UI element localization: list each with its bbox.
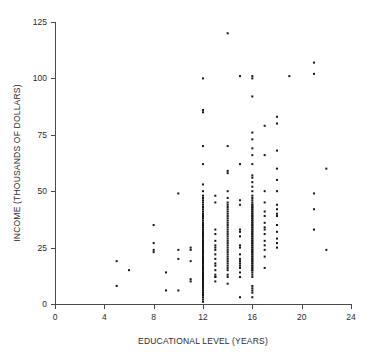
data-point [202,294,204,296]
data-point [202,283,204,285]
data-point [251,199,253,201]
data-point [227,258,229,260]
data-point [227,233,229,235]
data-point [239,235,241,237]
data-points-layer [116,32,328,302]
data-point [214,233,216,235]
data-point [251,289,253,291]
data-point [264,125,266,127]
data-point [227,238,229,240]
data-point [202,253,204,255]
data-point [227,170,229,172]
data-point [227,145,229,147]
data-point [276,238,278,240]
data-point [239,296,241,298]
data-point [202,190,204,192]
data-point [227,220,229,222]
data-point [227,211,229,213]
data-point [251,195,253,197]
data-point [264,244,266,246]
data-point [251,231,253,233]
data-point [227,274,229,276]
data-point [214,244,216,246]
data-point [251,267,253,269]
data-point [214,240,216,242]
data-point [276,242,278,244]
data-point [165,271,167,273]
data-point [202,77,204,79]
data-point [202,238,204,240]
y-tick-label: 0 [42,299,47,309]
data-point [214,258,216,260]
data-point [202,235,204,237]
data-point [251,274,253,276]
x-axis-title: EDUCATIONAL LEVEL (YEARS) [138,336,268,346]
data-point [276,168,278,170]
data-point [276,224,278,226]
data-point [251,244,253,246]
data-point [227,276,229,278]
data-point [128,269,130,271]
data-point [227,226,229,228]
data-point [264,222,266,224]
data-point [227,208,229,210]
data-point [251,75,253,77]
data-point [264,201,266,203]
data-point [276,213,278,215]
data-point [153,242,155,244]
data-point [202,206,204,208]
data-point [202,258,204,260]
data-point [264,249,266,251]
data-point [276,179,278,181]
x-tick-label: 8 [151,312,156,322]
data-point [239,231,241,233]
data-point [214,249,216,251]
data-point [251,217,253,219]
data-point [251,238,253,240]
x-axis-ticks: 04812162024 [53,304,356,322]
data-point [214,201,216,203]
data-point [251,240,253,242]
data-point [202,145,204,147]
data-point [202,278,204,280]
data-point [202,289,204,291]
data-point [202,251,204,253]
data-point [214,195,216,197]
data-point [190,280,192,282]
data-point [264,154,266,156]
data-point [214,265,216,267]
data-point [202,292,204,294]
data-point [251,224,253,226]
data-point [202,285,204,287]
axes-layer: 04812162024 0255075100125 [33,17,356,322]
data-point [190,249,192,251]
data-point [202,208,204,210]
data-point [251,276,253,278]
data-point [202,215,204,217]
plot-canvas: 04812162024 0255075100125 EDUCATIONAL LE… [0,0,376,359]
y-axis-ticks: 0255075100125 [33,17,55,309]
data-point [251,163,253,165]
data-point [202,109,204,111]
data-point [264,211,266,213]
data-point [251,242,253,244]
data-point [227,265,229,267]
data-point [202,226,204,228]
data-point [251,147,253,149]
data-point [202,197,204,199]
data-point [227,269,229,271]
data-point [227,253,229,255]
data-point [202,274,204,276]
data-point [251,204,253,206]
data-point [251,154,253,156]
data-point [177,258,179,260]
data-point [313,62,315,64]
data-point [227,247,229,249]
data-point [227,231,229,233]
data-point [227,190,229,192]
data-point [276,190,278,192]
data-point [251,233,253,235]
data-point [202,201,204,203]
data-point [239,260,241,262]
data-point [239,204,241,206]
